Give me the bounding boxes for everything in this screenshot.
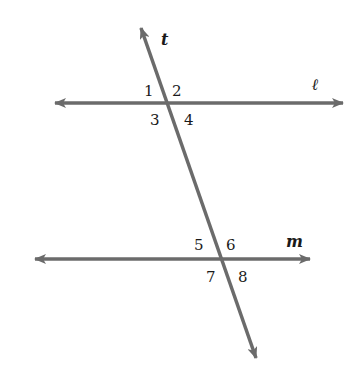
angle-6: 6 (226, 236, 236, 254)
angle-4: 4 (184, 111, 194, 129)
angle-1: 1 (144, 82, 154, 100)
label-m: m (286, 232, 303, 251)
parallel-lines-transversal-diagram: t ℓ m 1 2 3 4 5 6 7 8 (0, 0, 348, 377)
label-l: ℓ (311, 75, 319, 94)
angle-2: 2 (172, 82, 182, 100)
label-t: t (161, 30, 169, 49)
angle-5: 5 (194, 236, 204, 254)
angle-8: 8 (238, 268, 248, 286)
transversal-t (141, 28, 256, 358)
angle-7: 7 (206, 268, 216, 286)
angle-3: 3 (150, 111, 160, 129)
